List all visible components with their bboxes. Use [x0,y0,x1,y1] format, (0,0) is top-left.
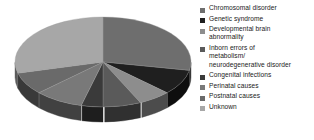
legend-item[interactable]: Chromosomal disorder [200,4,314,13]
pie-top-faces [15,17,191,107]
legend-item[interactable]: Congenital infections [200,71,314,80]
legend-item[interactable]: Inborn errors of metabolism/ neurodegene… [200,44,314,69]
square-marker [200,18,205,23]
legend-item[interactable]: Genetic syndrome [200,15,314,24]
legend-item[interactable]: Postnatal causes [200,92,314,101]
legend-item-label: Unknown [209,103,237,111]
pie-plot-area [0,0,200,140]
square-marker [200,75,205,80]
square-marker [200,106,205,111]
legend-item[interactable]: Perinatal causes [200,82,314,91]
legend-item[interactable]: Unknown [200,103,314,112]
legend-item-label: Developmental brain abnormality [209,25,270,42]
pie-slice[interactable] [103,17,191,70]
legend-item-label: Congenital infections [209,71,271,79]
square-marker [200,96,205,101]
legend-item-label: Genetic syndrome [209,15,263,23]
chart-legend: Chromosomal disorderGenetic syndromeDeve… [200,4,314,140]
square-marker [200,29,205,34]
square-marker [200,8,205,13]
square-marker [200,47,205,52]
pie-slice-side [82,106,103,122]
legend-item[interactable]: Developmental brain abnormality [200,25,314,42]
legend-item-label: Perinatal causes [209,82,259,90]
pie-3d-graphic [0,0,200,140]
pie-chart-figure: Chromosomal disorderGenetic syndromeDeve… [0,0,314,140]
legend-item-label: Chromosomal disorder [209,4,277,12]
legend-item-label: Postnatal causes [209,92,260,100]
square-marker [200,85,205,90]
legend-item-label: Inborn errors of metabolism/ neurodegene… [209,44,291,69]
